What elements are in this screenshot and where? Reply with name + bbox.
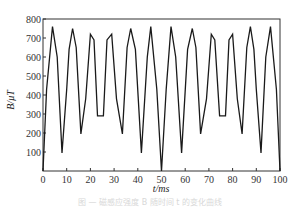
y-tick-label: 600 xyxy=(26,52,41,63)
y-tick-label: 700 xyxy=(26,33,41,44)
y-tick-label: 500 xyxy=(26,71,41,82)
x-tick-label: 30 xyxy=(109,174,119,185)
x-tick-label: 100 xyxy=(273,174,288,185)
x-tick-label: 70 xyxy=(204,174,214,185)
y-tick-label: 300 xyxy=(26,109,41,120)
x-tick-label: 10 xyxy=(62,174,72,185)
figure-caption: 图 — 磁感应强度 B 随时间 t 的变化曲线 xyxy=(0,196,300,207)
data-line-B xyxy=(43,27,280,171)
y-tick-label: 800 xyxy=(26,14,41,25)
x-tick-label: 20 xyxy=(85,174,95,185)
y-tick-label: 400 xyxy=(26,90,41,101)
x-axis-label: t/ms xyxy=(153,183,170,194)
x-tick-label: 60 xyxy=(180,174,190,185)
x-tick-label: 40 xyxy=(133,174,143,185)
y-tick-label: 100 xyxy=(26,147,41,158)
x-tick-label: 0 xyxy=(41,174,46,185)
x-tick-label: 90 xyxy=(251,174,261,185)
y-axis-label: B/μT xyxy=(5,89,16,110)
y-tick-label: 200 xyxy=(26,128,41,139)
line-chart: 100200300400500600700800 010203040506070… xyxy=(0,0,300,209)
x-tick-label: 80 xyxy=(228,174,238,185)
